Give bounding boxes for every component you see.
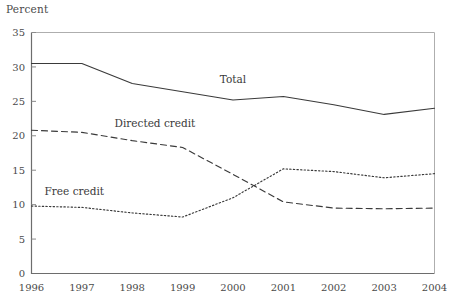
x-axis-tick-label: 2002 [321,282,346,293]
series-label-free-credit: Free credit [45,185,105,197]
y-axis-tick-labels: 05101520253035 [12,27,25,279]
axis-spines [32,33,435,274]
y-axis-tick-label: 0 [19,268,25,279]
x-axis-tick-label: 1998 [120,282,145,293]
y-axis-tick-label: 30 [12,62,25,73]
x-axis-tick-label: 2001 [271,282,296,293]
x-axis-tick-labels: 199619971998199920002001200220032004 [19,282,447,293]
x-axis-tick-label: 1999 [170,282,195,293]
series-annotations-group: TotalDirected creditFree credit [45,73,247,197]
series-label-directed-credit: Directed credit [115,117,197,129]
x-axis-tick-label: 2003 [371,282,396,293]
y-axis-tick-label: 35 [12,27,25,38]
plot-border [32,33,435,274]
series-line-total [32,63,435,114]
x-axis-tick-label: 1997 [69,282,94,293]
x-axis-tick-label: 1996 [19,282,44,293]
y-axis-tick-label: 20 [12,130,25,141]
series-label-total: Total [220,73,247,85]
line-chart: Percent 05101520253035 19961997199819992… [0,0,453,305]
x-axis-tick-label: 2004 [422,282,447,293]
y-axis-tick-label: 25 [12,96,25,107]
y-axis-tick-label: 5 [19,234,25,245]
chart-canvas: 05101520253035 1996199719981999200020012… [0,0,453,305]
y-axis-tick-label: 10 [12,199,25,210]
y-axis-tick-label: 15 [12,165,25,176]
x-axis-tick-label: 2000 [220,282,245,293]
plot-frame [32,33,435,274]
